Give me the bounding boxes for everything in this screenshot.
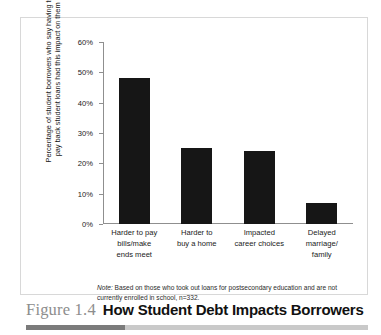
- note-lead-label: Note:: [97, 284, 113, 291]
- y-tick-label: 0%: [82, 220, 93, 229]
- chart-frame: Percentage of student borrowers who say …: [20, 17, 368, 295]
- bar: [244, 151, 275, 224]
- caption-rule-bar: [26, 325, 368, 330]
- bar: [306, 203, 337, 224]
- figure-title: How Student Debt Impacts Borrowers: [103, 301, 364, 318]
- y-tick-0%: 0%: [99, 224, 103, 225]
- bar: [181, 148, 212, 224]
- y-tick-label: 60%: [78, 38, 93, 47]
- category-label-line: ends meet: [103, 249, 166, 260]
- y-axis-title: Percentage of student borrowers who say …: [44, 0, 63, 163]
- category-label-line: buy a home: [166, 238, 229, 249]
- y-tick-label: 50%: [78, 68, 93, 77]
- category-label-line: marriage/: [291, 238, 354, 249]
- category-label-line: family: [291, 249, 354, 260]
- x-axis-category-labels: Harder to paybills/makeends meetHarder t…: [103, 227, 353, 269]
- bar: [119, 78, 150, 224]
- category-label-line: Delayed: [291, 227, 354, 238]
- x-axis-category-label: Harder to paybills/makeends meet: [103, 227, 166, 260]
- category-label-line: Impacted: [228, 227, 291, 238]
- plot-area: 0%10%20%30%40%50%60%: [103, 42, 353, 224]
- figure-container: Percentage of student borrowers who say …: [0, 0, 381, 335]
- x-axis-category-label: Harder tobuy a home: [166, 227, 229, 249]
- y-tick-label: 40%: [78, 98, 93, 107]
- note-body-text: Based on those who took out loans for po…: [97, 284, 337, 301]
- category-label-line: career choices: [228, 238, 291, 249]
- y-tick-label: 20%: [78, 159, 93, 168]
- figure-caption: Figure 1.4 How Student Debt Impacts Borr…: [26, 300, 370, 320]
- category-label-line: Harder to pay: [103, 227, 166, 238]
- x-axis-category-label: Impactedcareer choices: [228, 227, 291, 249]
- bar-series: [103, 42, 353, 224]
- y-tick-label: 10%: [78, 189, 93, 198]
- figure-number-label: Figure 1.4: [26, 300, 96, 320]
- y-tick-label: 30%: [78, 129, 93, 138]
- category-label-line: bills/make: [103, 238, 166, 249]
- x-axis-category-label: Delayedmarriage/family: [291, 227, 354, 260]
- category-label-line: Harder to: [166, 227, 229, 238]
